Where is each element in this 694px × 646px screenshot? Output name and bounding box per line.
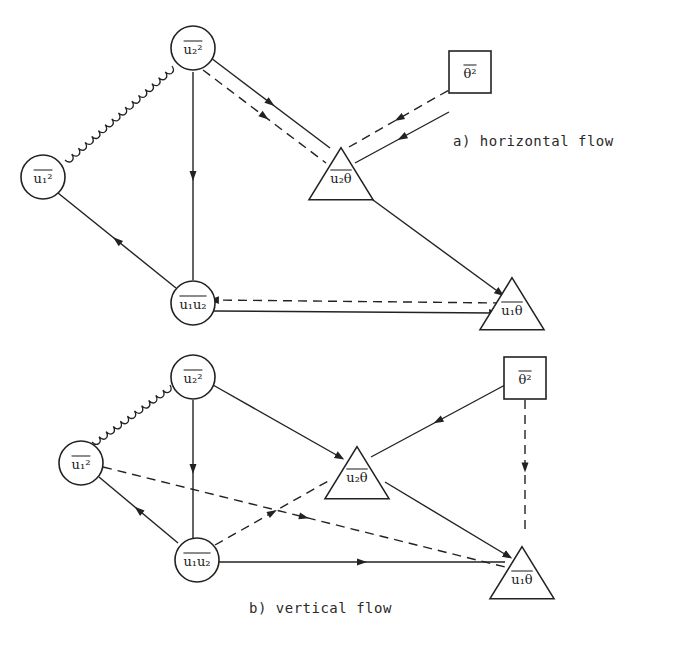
solid-flow-edge bbox=[213, 385, 340, 457]
node-label-u2-variance-a: u₂² bbox=[184, 43, 203, 56]
arrowhead-icon bbox=[298, 512, 309, 521]
solid-flow-edge bbox=[385, 482, 508, 556]
node-label-u1theta-b: u₁θ bbox=[511, 573, 532, 586]
caption-vertical-flow: b) vertical flow bbox=[249, 600, 392, 616]
coupling-wavy-edge bbox=[65, 66, 173, 162]
node-label-u2theta-b: u₂θ bbox=[346, 471, 367, 484]
node-label-u2-variance-b: u₂² bbox=[184, 372, 203, 385]
node-label-theta-variance-a: θ² bbox=[463, 67, 476, 80]
node-label-u1u2-a: u₁u₂ bbox=[179, 298, 206, 311]
arrowhead-icon bbox=[357, 559, 367, 566]
edges-horizontal-flow bbox=[58, 58, 502, 313]
dashed-flow-edge bbox=[214, 300, 502, 303]
arrowhead-icon bbox=[396, 132, 408, 143]
node-label-u1theta-a: u₁θ bbox=[501, 304, 522, 317]
node-label-u1-variance-b: u₁² bbox=[72, 458, 91, 471]
node-label-u1-variance-a: u₁² bbox=[34, 172, 53, 185]
solid-flow-edge bbox=[214, 311, 494, 313]
edges-vertical-flow bbox=[92, 385, 529, 567]
node-label-u2theta-a: u₂θ bbox=[330, 172, 351, 185]
arrowhead-icon bbox=[190, 464, 197, 474]
flow-diagram-canvas bbox=[0, 0, 694, 646]
arrowhead-icon bbox=[393, 113, 405, 124]
node-label-theta-variance-b: θ² bbox=[518, 373, 531, 386]
coupling-wavy-edge bbox=[92, 385, 171, 444]
node-label-u1u2-b: u₁u₂ bbox=[183, 555, 210, 568]
arrowhead-icon bbox=[432, 416, 444, 427]
caption-horizontal-flow: a) horizontal flow bbox=[453, 133, 614, 149]
arrowhead-icon bbox=[190, 171, 197, 181]
solid-flow-edge bbox=[358, 189, 500, 293]
arrowhead-icon bbox=[522, 463, 529, 473]
